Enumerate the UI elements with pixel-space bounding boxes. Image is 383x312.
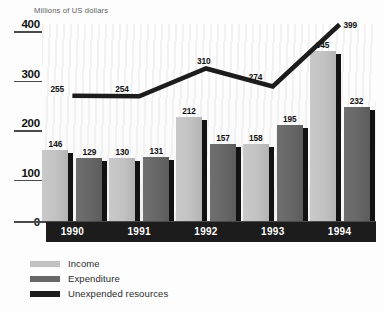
y-axis-tick-rule-200 <box>14 130 42 132</box>
legend-swatch-icon <box>30 261 60 267</box>
legend-item-unexpended-resources: Unexpended resources <box>30 286 168 301</box>
plot-area: 146129130131212157158195345232 255254310… <box>42 24 376 222</box>
x-axis-label-1990: 1990 <box>48 222 96 242</box>
x-axis-label-1991: 1991 <box>115 222 163 242</box>
y-axis-tick-label-300: 300 <box>0 68 40 80</box>
x-axis-label-1993: 1993 <box>249 222 297 242</box>
y-axis-tick-label-100: 100 <box>0 167 40 179</box>
line-series-unexpended-resources <box>42 24 376 222</box>
line-value-label-1991: 254 <box>115 84 129 94</box>
y-axis-tick-label-400: 400 <box>0 18 40 30</box>
legend-item-expenditure: Expenditure <box>30 271 168 286</box>
x-axis-label-1994: 1994 <box>316 222 364 242</box>
legend-swatch-icon <box>30 291 60 297</box>
legend-label: Unexpended resources <box>68 288 168 299</box>
chart-container: Millions of US dollars 4003002001000 146… <box>0 0 383 312</box>
legend-swatch-icon <box>30 276 60 282</box>
y-axis-tick-label-200: 200 <box>0 117 40 129</box>
x-axis-label-1992: 1992 <box>182 222 230 242</box>
line-value-label-1994: 399 <box>344 20 358 30</box>
legend-label: Expenditure <box>68 273 120 284</box>
y-axis-tick-rule-300 <box>14 81 42 83</box>
legend-item-income: Income <box>30 256 168 271</box>
legend-label: Income <box>68 258 100 269</box>
x-axis-band: 19901991199219931994 <box>46 222 376 242</box>
line-value-label-1992: 310 <box>197 56 211 66</box>
y-axis-tick-rule-400 <box>14 31 42 33</box>
line-value-label-1990: 255 <box>50 84 64 94</box>
line-value-label-1993: 274 <box>249 72 263 82</box>
chart-title: Millions of US dollars <box>34 6 108 15</box>
chart-legend: IncomeExpenditureUnexpended resources <box>30 256 168 301</box>
y-axis-tick-rule-100 <box>14 180 42 182</box>
